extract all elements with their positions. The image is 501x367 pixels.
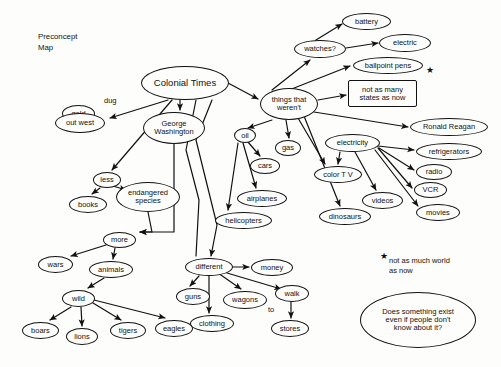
edge-things-that-werent-to-oil <box>248 120 272 128</box>
edge-watches-to-battery <box>316 24 342 40</box>
node-animals[interactable]: animals <box>89 261 133 278</box>
node-more[interactable]: more <box>103 232 136 248</box>
node-stores[interactable]: stores <box>271 320 309 337</box>
edge-things-that-werent-to-dinosaurs <box>304 116 340 206</box>
edge-wild-to-eagles <box>94 300 165 318</box>
node-wars[interactable]: wars <box>38 256 73 273</box>
edge-electricity-to-vcr <box>378 148 412 188</box>
edge-things-that-werent-to-not-as-many-states <box>318 95 346 100</box>
node-electricity[interactable]: electricity <box>325 134 380 152</box>
edge-wild-to-tigers <box>93 303 121 320</box>
node-cars[interactable]: cars <box>250 158 280 174</box>
edge-colonial-times-to-things-that-werent <box>228 83 258 99</box>
asterisk-marker-icon: ★ <box>380 252 388 261</box>
node-george-washington[interactable]: George Washington <box>143 112 205 144</box>
node-battery[interactable]: battery <box>342 13 391 30</box>
node-helicopters[interactable]: helicopters <box>215 212 272 229</box>
node-airplanes[interactable]: airplanes <box>237 190 287 207</box>
node-movies[interactable]: movies <box>416 204 460 221</box>
node-does-something-exist[interactable]: Does something exist even if people don'… <box>360 292 476 348</box>
node-electric[interactable]: electric <box>379 34 431 52</box>
node-lions[interactable]: lions <box>66 328 98 345</box>
node-eagles[interactable]: eagles <box>155 320 193 337</box>
node-oil[interactable]: oil <box>234 128 256 143</box>
edge-wild-to-boars <box>50 307 71 320</box>
node-things-that-werent[interactable]: things that weren't <box>260 88 318 120</box>
free-text-footnote: not as much world as now <box>389 256 450 276</box>
node-less[interactable]: less <box>93 172 121 188</box>
node-endangered-species[interactable]: endangered species <box>116 182 180 212</box>
edge-electricity-to-refrigerators <box>378 146 414 150</box>
edge-animals-to-wild <box>88 278 104 288</box>
edge-more-to-animals <box>113 248 115 259</box>
node-money[interactable]: money <box>251 259 293 276</box>
edge-label-to-label: to <box>268 305 274 315</box>
edge-watches-to-electric <box>346 43 378 48</box>
edge-electricity-to-radio <box>379 148 414 170</box>
page-title: Preconcept Map <box>38 31 77 54</box>
node-dinosaurs[interactable]: dinosaurs <box>319 208 371 225</box>
node-color-tv[interactable]: color T V <box>314 166 362 183</box>
edge-less-to-books <box>92 188 100 194</box>
edge-things-that-werent-to-gas <box>286 120 289 138</box>
edge-endangered-species-to-more <box>140 212 152 232</box>
node-colonial-times[interactable]: Colonial Times <box>141 66 229 100</box>
edge-wild-to-lions <box>81 307 82 326</box>
edge-things-that-werent-to-watches <box>272 60 310 90</box>
node-radio[interactable]: radio <box>416 164 452 180</box>
node-watches[interactable]: watches? <box>294 40 346 58</box>
node-out-west[interactable]: out west <box>55 113 105 133</box>
node-vcr[interactable]: VCR <box>414 182 447 198</box>
node-clothing[interactable]: clothing <box>190 315 234 332</box>
concept-map-canvas: Preconcept Map Colonial Timesgoldout wes… <box>0 0 501 367</box>
node-ronald-reagan[interactable]: Ronald Reagan <box>410 118 488 136</box>
asterisk-marker-icon: ★ <box>426 66 434 75</box>
node-different[interactable]: different <box>185 258 233 276</box>
edge-label-dug-label: dug <box>104 96 117 106</box>
node-refrigerators[interactable]: refrigerators <box>416 143 482 160</box>
edge-oil-to-cars <box>248 142 260 156</box>
node-guns[interactable]: guns <box>176 288 210 305</box>
node-books[interactable]: books <box>69 196 107 213</box>
node-wild[interactable]: wild <box>62 290 95 307</box>
node-walk[interactable]: walk <box>275 285 309 302</box>
node-boars[interactable]: boars <box>22 322 59 339</box>
edge-things-that-werent-to-color-tv <box>298 118 325 164</box>
edge-different-to-guns <box>190 276 199 286</box>
edge-more-to-wars <box>71 245 106 256</box>
edge-things-that-werent-to-ronald-reagan <box>314 112 408 127</box>
edge-different-to-wagons <box>218 273 241 289</box>
node-not-as-many-states[interactable]: not as many states as now <box>348 80 417 107</box>
edge-electricity-to-color-tv <box>338 152 340 164</box>
node-videos[interactable]: videos <box>362 192 403 209</box>
node-gas[interactable]: gas <box>275 140 301 156</box>
node-wagons[interactable]: wagons <box>223 291 267 309</box>
node-tigers[interactable]: tigers <box>110 322 146 339</box>
node-ballpoint-pens[interactable]: ballpoint pens <box>353 57 423 74</box>
